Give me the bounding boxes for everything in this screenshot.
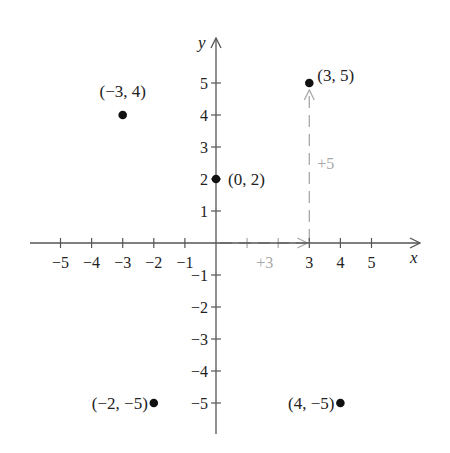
point-label: (0, 2) (228, 170, 265, 189)
y-tick-label: −5 (191, 395, 208, 412)
y-tick-label: 4 (200, 107, 208, 124)
x-tick-label: −2 (145, 254, 162, 271)
y-axis-label: y (196, 33, 206, 52)
data-point (118, 111, 127, 120)
y-tick-label: 5 (200, 75, 208, 92)
point-label: (−3, 4) (99, 82, 145, 101)
x-tick-label: −5 (52, 254, 69, 271)
x-tick-label: 3 (305, 254, 313, 271)
x-tick-label: 5 (368, 254, 376, 271)
x-tick-label: −3 (114, 254, 131, 271)
data-point (305, 79, 314, 88)
y-tick-label: −4 (191, 363, 208, 380)
x-axis-label: x (409, 248, 418, 267)
translation-label: +5 (317, 155, 334, 172)
data-point (150, 399, 159, 408)
y-tick-label: 3 (200, 139, 208, 156)
y-tick-label: 2 (200, 171, 208, 188)
x-tick-label: 4 (336, 254, 344, 271)
coordinate-plane: +3+5 −5−4−3−2−1345 54321−1−2−3−4−5 x y (… (0, 0, 450, 453)
y-tick-label: 1 (200, 203, 208, 220)
y-tick-label: −3 (191, 331, 208, 348)
point-label: (−2, −5) (92, 394, 148, 413)
point-label: (4, −5) (288, 394, 334, 413)
point-label: (3, 5) (317, 66, 354, 85)
points-group: (−3, 4)(0, 2)(3, 5)(−2, −5)(4, −5) (92, 66, 354, 413)
y-tick-label: −2 (191, 299, 208, 316)
data-point (336, 399, 345, 408)
data-point (212, 175, 221, 184)
translation-label: +3 (256, 254, 273, 271)
x-tick-label: −4 (83, 254, 100, 271)
y-tick-label: −1 (191, 267, 208, 284)
